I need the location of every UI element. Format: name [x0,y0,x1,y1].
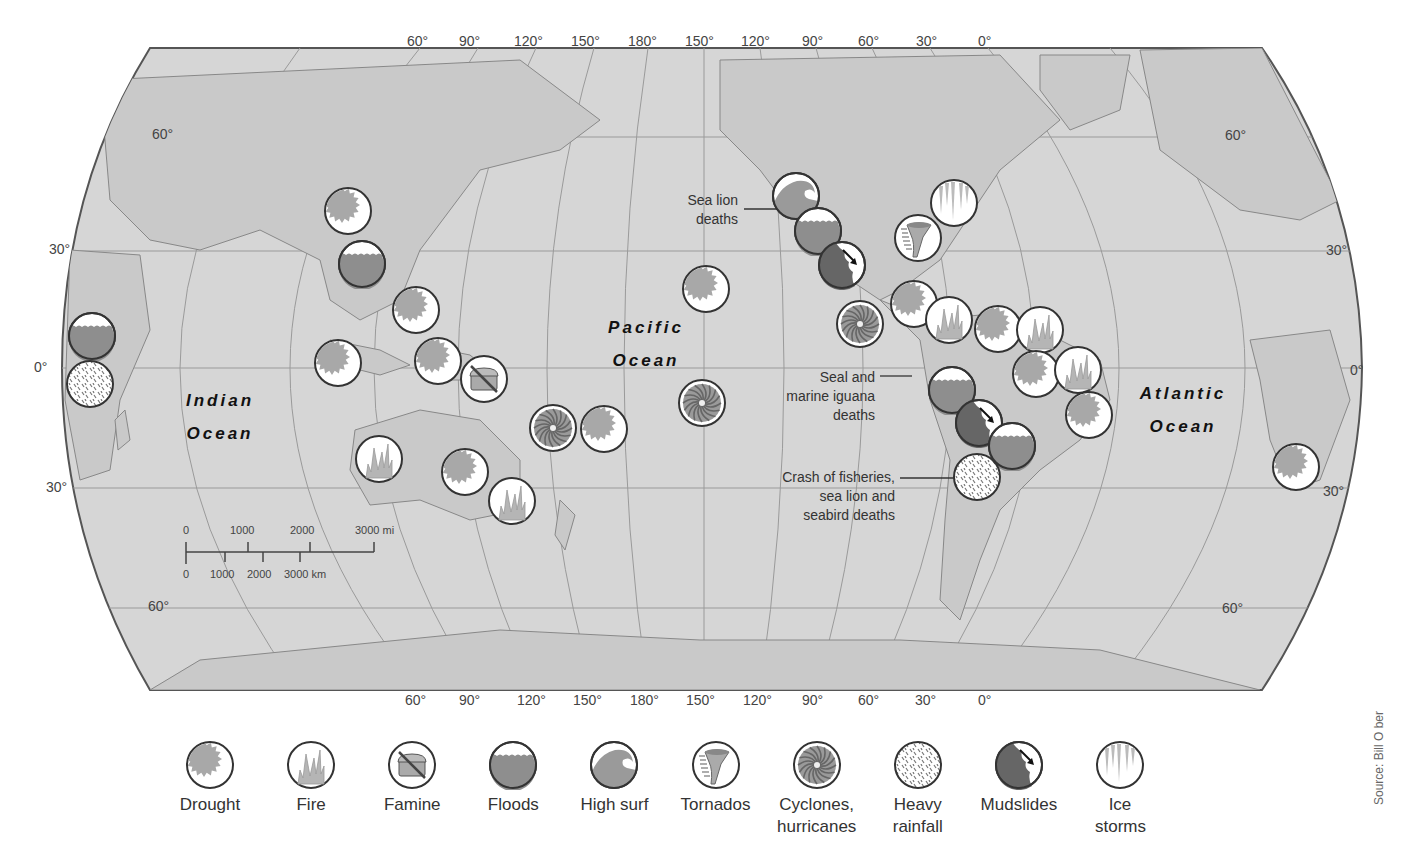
ice-storm-icon [1095,740,1145,790]
famine-icon [387,740,437,790]
drought-marker-icon [392,286,439,333]
floods-icon [488,740,538,790]
legend-item-floods: Floods [463,740,563,838]
famine-marker-icon [461,356,507,402]
floods-marker-icon [339,241,385,290]
legend-label: Cyclones, hurricanes [767,794,867,838]
legend-item-tornados: Tornados [666,740,766,838]
drought-marker-icon [324,187,371,234]
drought-marker-icon [441,448,488,495]
legend-item-famine: Famine [362,740,462,838]
cyclone-icon [792,740,842,790]
legend: Drought Fire Famine Floods High surf Tor… [160,740,1170,838]
cyclones-marker-icon [679,380,725,426]
legend-item-drought: Drought [160,740,260,838]
legend-label: High surf [580,794,648,816]
fire-marker-icon [1017,307,1063,353]
drought-icon [185,740,235,790]
legend-item-heavy-rainfall: Heavy rainfall [868,740,968,838]
ice-storms-marker-icon [931,180,977,226]
legend-label: Famine [384,794,441,816]
legend-item-cyclones: Cyclones, hurricanes [767,740,867,838]
legend-label: Ice storms [1095,794,1145,838]
legend-label: Fire [296,794,325,816]
fire-marker-icon [356,436,402,482]
fire-marker-icon [1055,347,1101,393]
source-credit: Source: Bill O ber [1372,711,1386,805]
drought-marker-icon [414,337,461,384]
tornado-icon [691,740,741,790]
event-markers [0,0,1415,864]
floods-marker-icon [69,313,115,362]
legend-item-fire: Fire [261,740,361,838]
fire-icon [286,740,336,790]
legend-label: Drought [180,794,240,816]
fire-marker-icon [489,478,535,524]
legend-label: Floods [488,794,539,816]
mudslides-icon [994,740,1044,790]
legend-label: Tornados [681,794,751,816]
tornados-marker-icon [895,215,941,261]
drought-marker-icon [1272,443,1319,490]
legend-item-high-surf: High surf [564,740,664,838]
mudslides-marker-icon [819,242,865,290]
heavy-rainfall-marker-icon [67,361,113,407]
drought-marker-icon [682,265,729,312]
drought-marker-icon [1012,350,1059,397]
drought-marker-icon [580,405,627,452]
drought-marker-icon [1065,391,1112,438]
heavy-rainfall-icon [893,740,943,790]
high-surf-icon [589,740,639,790]
legend-item-ice-storms: Ice storms [1070,740,1170,838]
legend-label: Heavy rainfall [883,794,953,838]
fire-marker-icon [926,297,972,343]
drought-marker-icon [314,339,361,386]
legend-label: Mudslides [981,794,1058,816]
heavy-rainfall-marker-icon [954,454,1000,500]
cyclones-marker-icon [530,405,576,451]
legend-item-mudslides: Mudslides [969,740,1069,838]
drought-marker-icon [974,305,1021,352]
cyclones-marker-icon [837,301,883,347]
